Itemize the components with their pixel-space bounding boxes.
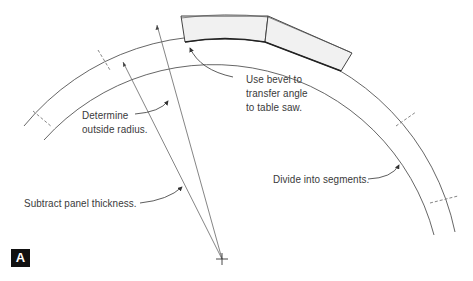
- divide-segments-label: Divide into segments.: [273, 172, 369, 186]
- bevel-label-line: Use bevel to: [246, 72, 308, 86]
- bevel-label: Use bevel to transfer angle to table saw…: [246, 72, 308, 114]
- outside-radius-line: [157, 25, 222, 259]
- bevel-label-line: transfer angle: [246, 86, 308, 100]
- inner-radius-line: [123, 62, 222, 259]
- outside-radius-label-line: Determine: [82, 108, 148, 122]
- subtract-thickness-label: Subtract panel thickness.: [24, 196, 137, 210]
- segment-divider: [396, 112, 416, 126]
- segment-divider: [430, 196, 458, 203]
- bevel-label-line: to table saw.: [246, 100, 308, 114]
- figure-badge: A: [11, 249, 30, 267]
- arc-diagram: [0, 0, 473, 281]
- outside-radius-label-line: outside radius.: [82, 122, 148, 136]
- segment-block-2: [265, 16, 352, 71]
- segment-divider: [33, 111, 52, 127]
- outside-radius-label: Determine outside radius.: [82, 108, 148, 136]
